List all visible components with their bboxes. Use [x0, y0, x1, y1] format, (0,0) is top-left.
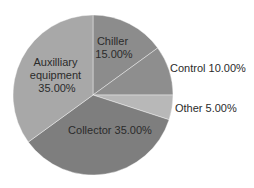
pie-slices — [13, 15, 173, 175]
label-collector: Collector 35.00% — [68, 124, 152, 136]
label-chiller: Chiller 15.00% — [95, 35, 133, 60]
label-other: Other 5.00% — [175, 102, 237, 114]
label-control: Control 10.00% — [170, 62, 246, 74]
pie-chart: Chiller 15.00% Control 10.00% Other 5.00… — [0, 0, 254, 188]
